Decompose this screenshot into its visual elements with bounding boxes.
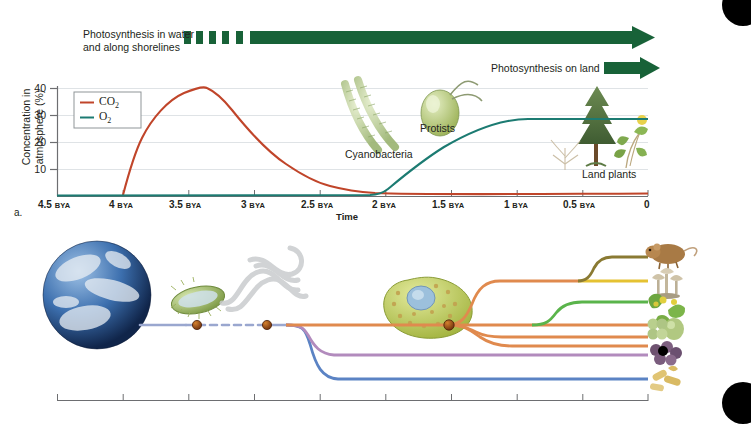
- prokaryote-cell-illustration: [169, 277, 227, 319]
- land-plants-label: Land plants: [582, 168, 636, 180]
- earth-illustration: [43, 241, 151, 349]
- legend-item-o2: O2: [99, 110, 111, 125]
- panel-b-svg: [0, 220, 751, 444]
- branch-plantae: [532, 302, 648, 325]
- branch-bacteria: [286, 325, 648, 379]
- node-origin-of-eukaryotes: [444, 320, 454, 330]
- protista-illustration: [648, 318, 685, 340]
- y-tick-40: 40: [28, 82, 46, 94]
- y-tick-10: 10: [28, 163, 46, 175]
- panel-a-atmosphere-chart: Photosynthesis in water and along shorel…: [0, 0, 751, 215]
- vine-illustration: [614, 115, 648, 168]
- x-tick-1bya: 1 BYA: [504, 199, 528, 210]
- cyanobacteria-label: Cyanobacteria: [345, 148, 413, 160]
- animalia-illustration: [646, 244, 697, 271]
- filament-illustration: [222, 248, 306, 310]
- panel-a-letter: a.: [14, 207, 22, 218]
- photosynthesis-on-land-arrow: [604, 57, 660, 79]
- x-tick-4bya: 4 BYA: [109, 199, 133, 210]
- x-tick-3.5bya: 3.5 BYA: [169, 199, 201, 210]
- x-tick-3bya: 3 BYA: [241, 199, 265, 210]
- panel-b-tree-of-life: Earliest cells (prokaryote microfossils)…: [0, 220, 751, 444]
- eukaryote-cell-illustration: [384, 277, 472, 338]
- branch-animalia: [578, 257, 648, 281]
- x-tick-0: 0: [644, 199, 650, 210]
- land-plants-illustration: [551, 86, 648, 170]
- bacteria-illustration: [649, 366, 681, 392]
- x-tick-4.5bya: 4.5 BYA: [38, 199, 70, 210]
- node-earliest-cells: [192, 320, 201, 329]
- node-last-common-ancestor: [262, 320, 271, 329]
- photosynthesis-land-label: Photosynthesis on land: [491, 62, 600, 74]
- archaea-illustration: [650, 341, 682, 366]
- x-tick-2bya: 2 BYA: [372, 199, 396, 210]
- photosynthesis-water-label: Photosynthesis in water and along shorel…: [83, 28, 194, 53]
- panel-b-axes: [57, 394, 648, 401]
- x-tick-0.5bya: 0.5 BYA: [563, 199, 595, 210]
- photosynthesis-in-water-arrow: [184, 26, 655, 49]
- x-tick-2.5bya: 2.5 BYA: [301, 199, 333, 210]
- x-tick-1.5bya: 1.5 BYA: [432, 199, 464, 210]
- y-tick-30: 30: [28, 109, 46, 121]
- y-tick-20: 20: [28, 136, 46, 148]
- legend-item-co2: CO2: [99, 95, 119, 110]
- protists-label: Protists: [420, 122, 455, 134]
- branch-protista-3: [449, 325, 648, 346]
